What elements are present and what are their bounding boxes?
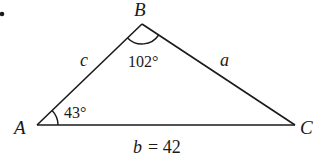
triangle-diagram: B A C c a b = 42 102° 43° — [0, 0, 327, 162]
side-value-b: = 42 — [148, 137, 181, 157]
side-c — [37, 24, 142, 125]
vertex-label-c: C — [300, 117, 313, 138]
vertex-label-b: B — [134, 0, 146, 20]
bullet-dot — [0, 12, 4, 17]
side-label-c: c — [80, 50, 88, 70]
angle-arc-a — [52, 111, 58, 126]
vertex-label-a: A — [12, 117, 26, 138]
side-a — [142, 24, 295, 125]
angle-label-b: 102° — [128, 53, 158, 70]
angle-label-a: 43° — [64, 104, 86, 121]
side-label-b: b — [133, 137, 142, 157]
angle-arc-b — [128, 35, 159, 44]
side-label-a: a — [220, 50, 229, 70]
